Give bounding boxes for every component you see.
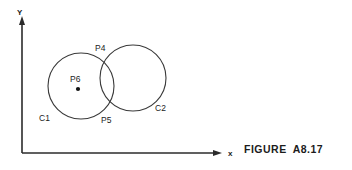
x-axis-label: x (228, 149, 233, 158)
circle-label-c2: C2 (155, 103, 166, 113)
y-axis-arrow-icon (19, 16, 25, 25)
figure-page: Y x C1 C2 P4 P5 P6 FIGUREA8.17 (0, 0, 352, 170)
figure-caption: FIGUREA8.17 (244, 143, 323, 155)
circle-label-c1: C1 (39, 113, 50, 123)
circle-c2 (100, 45, 166, 111)
point-label-p4: P4 (95, 43, 106, 53)
y-axis-label: Y (17, 8, 23, 17)
point-label-p6: P6 (70, 74, 81, 84)
figure-caption-word: FIGURE (244, 143, 287, 155)
figure-caption-number: A8.17 (293, 143, 324, 155)
point-dot-p6 (76, 87, 80, 91)
point-label-p5: P5 (101, 115, 112, 125)
x-axis-arrow-icon (213, 150, 222, 156)
